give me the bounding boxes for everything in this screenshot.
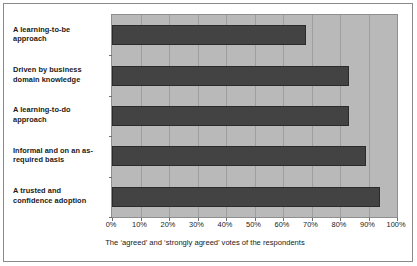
x-tick-label: 100% xyxy=(387,220,406,229)
x-tick-label: 50% xyxy=(246,220,261,229)
x-tick-label: 60% xyxy=(275,220,290,229)
category-tick-mark xyxy=(109,136,112,137)
category-tick-mark xyxy=(109,217,112,218)
category-tick-mark xyxy=(109,177,112,178)
category-tick-mark xyxy=(109,55,112,56)
category-label-line: required basis xyxy=(13,155,113,165)
x-tick-label: 70% xyxy=(303,220,318,229)
bar xyxy=(112,25,306,45)
category-label: Informal and on an as-required basis xyxy=(13,146,113,165)
category-label-line: approach xyxy=(13,34,113,44)
plot-area xyxy=(111,14,398,218)
x-tick-label: 20% xyxy=(161,220,176,229)
chart-container: A learning-to-beapproachDriven by busine… xyxy=(0,0,417,266)
category-label-line: Informal and on an as- xyxy=(13,146,113,156)
category-label-line: A learning-to-do xyxy=(13,105,113,115)
category-label: A trusted andconfidence adoption xyxy=(13,186,113,205)
bar xyxy=(112,66,349,86)
category-label: A learning-to-doapproach xyxy=(13,105,113,124)
category-label: Driven by businessdomain knowledge xyxy=(13,65,113,84)
category-label-line: Driven by business xyxy=(13,65,113,75)
category-label-line: confidence adoption xyxy=(13,196,113,206)
x-tick-label: 30% xyxy=(189,220,204,229)
category-label-line: A trusted and xyxy=(13,186,113,196)
category-label-line: approach xyxy=(13,115,113,125)
category-label: A learning-to-beapproach xyxy=(13,25,113,44)
category-label-line: domain knowledge xyxy=(13,75,113,85)
category-tick-mark xyxy=(109,96,112,97)
x-tick-label: 90% xyxy=(360,220,375,229)
x-axis-title: The ‘agreed’ and ‘strongly agreed’ votes… xyxy=(0,238,410,247)
x-tick-label: 40% xyxy=(218,220,233,229)
x-tick-label: 0% xyxy=(106,220,117,229)
bar xyxy=(112,106,349,126)
x-tick-label: 10% xyxy=(132,220,147,229)
category-label-line: A learning-to-be xyxy=(13,25,113,35)
bar xyxy=(112,146,366,166)
bar xyxy=(112,187,380,207)
x-tick-label: 80% xyxy=(332,220,347,229)
x-axis-tick-labels: 0%10%20%30%40%50%60%70%80%90%100% xyxy=(111,220,396,232)
category-axis-labels: A learning-to-beapproachDriven by busine… xyxy=(13,14,108,216)
